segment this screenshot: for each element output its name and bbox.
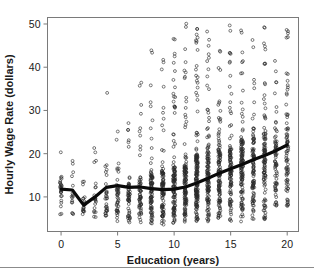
x-tick-label: 20: [281, 238, 293, 250]
y-tick-label: 40: [29, 61, 41, 73]
scatter-plot: 05101520 1020304050 Education (years) Ho…: [0, 0, 314, 275]
figure-container: 05101520 1020304050 Education (years) Ho…: [0, 0, 314, 275]
x-tick-label: 0: [58, 238, 64, 250]
y-axis-title: Hourly Wage Rate (dollars): [3, 54, 15, 195]
y-tick-label: 50: [29, 18, 41, 30]
y-tick-label: 10: [29, 191, 41, 203]
y-tick-label: 20: [29, 148, 41, 160]
bottom-divider: [0, 267, 314, 268]
y-tick-label: 30: [29, 104, 41, 116]
x-tick-label: 10: [168, 238, 180, 250]
x-tick-label: 15: [225, 238, 237, 250]
x-axis-title: Education (years): [127, 254, 220, 266]
x-tick-label: 5: [115, 238, 121, 250]
